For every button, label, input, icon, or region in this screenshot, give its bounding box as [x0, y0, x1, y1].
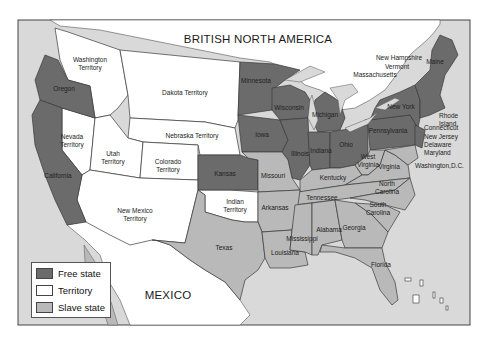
label-maine: Maine — [426, 58, 444, 66]
label-virginia: Virginia — [378, 163, 400, 171]
label-washington-dc: Washington,D.C. — [415, 162, 464, 170]
label-north-carolina: North Carolina — [375, 180, 399, 195]
label-ohio: Ohio — [339, 141, 353, 149]
label-connecticut: Connecticut — [424, 124, 458, 132]
label-iowa: Iowa — [255, 131, 269, 139]
label-illinois: Illinois — [291, 150, 309, 158]
label-indiana: Indiana — [310, 147, 331, 155]
label-georgia: Georgia — [342, 224, 365, 232]
legend-label-slave-state: Slave state — [58, 302, 105, 313]
label-arkansas: Arkansas — [261, 204, 288, 212]
label-british-north-america: BRITISH NORTH AMERICA — [184, 36, 332, 44]
label-massachusetts: Massachusetts — [353, 71, 396, 79]
label-michigan: Michigan — [312, 111, 338, 119]
label-new-mexico-territory: New Mexico Territory — [117, 207, 152, 222]
map-legend: Free state Territory Slave state — [31, 262, 111, 318]
label-wisconsin: Wisconsin — [274, 104, 304, 112]
label-missouri: Missouri — [261, 172, 285, 180]
label-nebraska-territory: Nebraska Territory — [166, 132, 219, 140]
label-mexico: MEXICO — [145, 292, 192, 300]
legend-swatch-slave-state — [36, 302, 53, 313]
label-pennsylvania: Pennsylvania — [369, 127, 408, 135]
label-maryland: Maryland — [424, 149, 451, 157]
label-delaware: Delaware — [424, 141, 451, 149]
label-new-hampshire: New Hampshire — [376, 54, 422, 62]
legend-label-territory: Territory — [58, 285, 92, 296]
label-oregon: Oregon — [53, 85, 75, 93]
label-alabama: Alabama — [316, 226, 342, 234]
legend-swatch-free-state — [36, 268, 53, 279]
label-dakota-territory: Dakota Territory — [162, 89, 208, 97]
label-tennessee: Tennessee — [306, 194, 337, 202]
label-indian-territory: Indian Territory — [223, 198, 246, 213]
label-texas: Texas — [216, 244, 233, 252]
label-new-jersey: New Jersey — [424, 133, 458, 141]
legend-label-free-state: Free state — [58, 268, 101, 279]
label-vermont: Vermont — [385, 63, 409, 71]
label-washington-territory: Washington Territory — [73, 56, 107, 71]
label-kentucky: Kentucky — [320, 174, 347, 182]
label-kansas: Kansas — [214, 170, 236, 178]
legend-swatch-territory — [36, 285, 53, 296]
label-utah-territory: Utah Territory — [101, 150, 124, 165]
label-mississippi: Mississippi — [286, 235, 317, 243]
legend-item-territory: Territory — [36, 283, 92, 297]
legend-item-free-state: Free state — [36, 266, 101, 280]
label-colorado-territory: Colorado Territory — [155, 158, 181, 173]
label-california: California — [44, 172, 71, 180]
label-nevada-territory: Nevada Territory — [60, 133, 83, 148]
label-new-york: New York — [387, 103, 414, 111]
label-florida: Florida — [371, 261, 391, 269]
label-south-carolina: South Carolina — [366, 201, 390, 216]
label-minnesota: Minnesota — [241, 77, 271, 85]
label-louisiana: Louisiana — [271, 249, 299, 257]
legend-item-slave-state: Slave state — [36, 300, 105, 314]
label-west-virginia: West Virginia — [357, 153, 379, 168]
